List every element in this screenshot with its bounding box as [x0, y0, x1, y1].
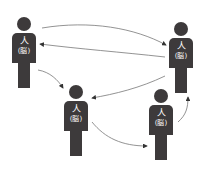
head-icon	[174, 22, 188, 36]
arrow-a-to-c	[38, 70, 63, 88]
brain-label: (脳)	[64, 115, 88, 124]
arrow-c-to-d	[92, 122, 147, 146]
person-label: 人	[149, 108, 173, 118]
legs	[155, 134, 167, 160]
legs	[18, 62, 30, 88]
legs	[175, 67, 187, 93]
arrow-d-to-b	[178, 97, 188, 122]
head-icon	[154, 89, 168, 103]
head-icon	[69, 85, 83, 99]
head-icon	[17, 17, 31, 31]
brain-label: (脳)	[169, 52, 193, 61]
legs	[70, 130, 82, 156]
brain-label: (脳)	[12, 47, 36, 56]
person-label: 人	[12, 36, 36, 46]
person-label: 人	[169, 41, 193, 51]
arrow-b-to-a	[40, 44, 165, 57]
arrow-a-to-b	[42, 25, 166, 45]
person-label: 人	[64, 104, 88, 114]
brain-label: (脳)	[149, 119, 173, 128]
